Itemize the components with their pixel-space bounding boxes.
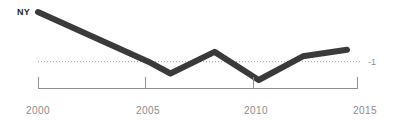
sparkline-chart: NY -1 2000 2005 2010 2015 (0, 0, 398, 124)
x-tick-label-2015: 2015 (353, 105, 377, 116)
x-tick-label-2010: 2010 (244, 105, 268, 116)
series-label-ny: NY (17, 7, 30, 17)
data-line-ny (38, 12, 347, 80)
chart-canvas: NY -1 2000 2005 2010 2015 (0, 0, 398, 124)
x-tick-label-2005: 2005 (136, 105, 160, 116)
x-tick-label-2000: 2000 (26, 105, 50, 116)
reference-line-label: -1 (368, 57, 376, 67)
